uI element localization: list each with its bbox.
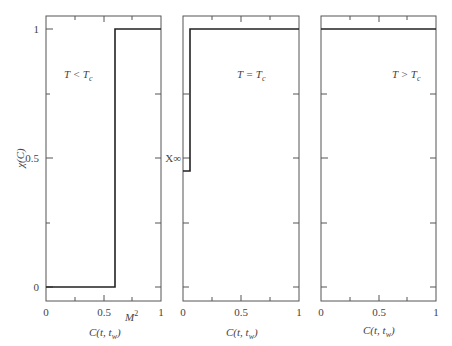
panel-1-xlabel: C(t, tw) <box>89 326 121 341</box>
panel-3-xlabel: C(t, tw) <box>363 324 395 339</box>
panel-2-xlabel: C(t, tw) <box>226 326 258 341</box>
panel-2-frame <box>183 16 299 301</box>
x-tick-1: 1 <box>296 306 302 318</box>
y-tick-1: 1 <box>34 23 40 35</box>
y-tick-0: 0 <box>34 281 40 293</box>
chi-infinity-annotation: X∞ <box>165 152 181 164</box>
panel-1-frame <box>46 16 161 301</box>
x-tick-0.5: 0.5 <box>372 306 386 318</box>
panel-1-label: T < Tc <box>64 68 93 83</box>
m-squared-annotation: M2 <box>124 309 138 323</box>
panel-3-label: T > Tc <box>392 68 421 83</box>
panel-3: 0 0.5 1 T > Tc C(t, tw) <box>318 16 439 339</box>
y-tick-0.5: 0.5 <box>25 152 39 164</box>
y-axis-label: χ(C) <box>14 148 27 169</box>
x-tick-0.5: 0.5 <box>234 306 248 318</box>
x-tick-0: 0 <box>318 306 324 318</box>
x-tick-0: 0 <box>43 306 49 318</box>
panel-2: X∞ 0 0.5 1 T = Tc C(t, tw) <box>165 16 302 341</box>
x-tick-1: 1 <box>433 306 439 318</box>
panel-3-frame <box>321 16 436 301</box>
panel-2-curve <box>183 29 299 171</box>
panel-1: 1 0.5 0 0 0.5 1 M2 T < Tc C(t, tw) <box>25 16 164 341</box>
x-tick-1: 1 <box>158 306 164 318</box>
panel-2-label: T = Tc <box>237 68 266 83</box>
x-tick-0.5: 0.5 <box>97 306 111 318</box>
chart-figure: 1 0.5 0 0 0.5 1 M2 T < Tc C(t, tw) χ(C) … <box>0 0 452 346</box>
x-tick-0: 0 <box>180 306 186 318</box>
